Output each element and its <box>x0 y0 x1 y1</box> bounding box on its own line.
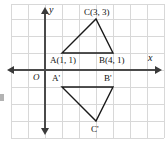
x-axis-label: x <box>148 53 152 63</box>
coordinate-plane-figure: A(1, 1) B(4, 1) C(3, 3) A' B' C' x y O <box>0 0 167 142</box>
triangles-overlay <box>0 0 167 142</box>
point-label-a-prime: A' <box>52 74 60 83</box>
origin-label: O <box>33 73 40 82</box>
point-label-a: A(1, 1) <box>50 56 76 65</box>
edge-clipped-glyph <box>0 94 4 101</box>
point-label-b: B(4, 1) <box>99 56 125 65</box>
triangle-abc <box>62 19 113 53</box>
point-label-b-prime: B' <box>104 74 112 83</box>
point-label-c-prime: C' <box>91 125 99 134</box>
y-axis-label: y <box>49 5 53 15</box>
point-label-c: C(3, 3) <box>84 8 110 17</box>
triangle-abc-prime <box>62 87 113 121</box>
